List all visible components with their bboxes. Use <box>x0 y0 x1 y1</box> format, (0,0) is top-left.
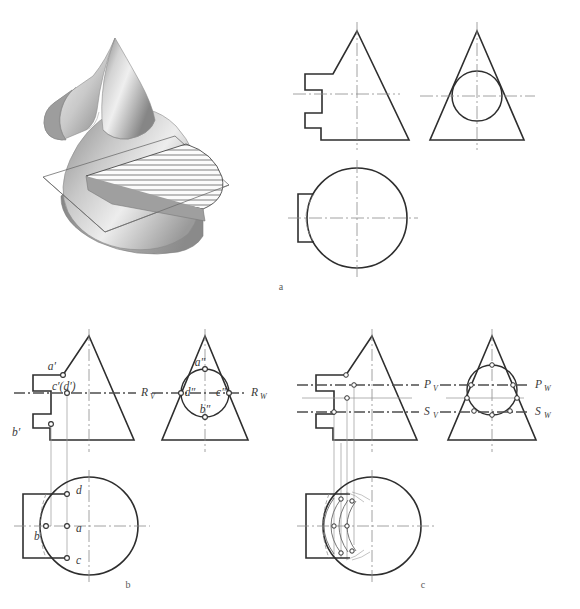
label-pv: P V <box>423 378 439 393</box>
panel-c-top-point-1 <box>332 524 336 528</box>
point-d <box>65 492 70 497</box>
svg-text:P: P <box>423 378 431 390</box>
panel-b-side-view <box>152 329 248 452</box>
panel-b-labels: a′ c′(d′) b′ a″ d″ c″ b″ d a b c R V R W <box>12 356 268 566</box>
panel-c-top-point-3 <box>339 497 343 501</box>
label-d: d <box>76 484 82 496</box>
panel-c-top-point-2 <box>345 524 349 528</box>
panel-c-front-outline <box>316 336 417 440</box>
label-a-dprime: a″ <box>195 356 206 368</box>
label-rv: R V <box>140 386 156 401</box>
panel-c-top-point-6 <box>350 549 354 553</box>
construction-tail-3 <box>352 552 370 560</box>
panel-b: a′ c′(d′) b′ a″ d″ c″ b″ d a b c R V R W… <box>12 329 268 590</box>
panel-c-side-point-swr <box>508 409 513 414</box>
svg-text:S: S <box>424 405 430 417</box>
label-a-prime: a′ <box>48 360 57 372</box>
panel-a-top-view <box>288 160 418 277</box>
svg-text:R: R <box>250 386 258 398</box>
panel-c-top-view <box>297 470 434 583</box>
point-a-prime <box>61 373 66 378</box>
label-b-prime: b′ <box>12 426 21 438</box>
point-a <box>65 524 70 529</box>
label-b-dprime: b″ <box>200 403 211 415</box>
label-pw: P W <box>534 378 552 393</box>
panel-c-caption: c <box>421 579 426 590</box>
panel-c-top-point-5 <box>339 551 343 555</box>
panel-b-front-view <box>14 329 136 560</box>
svg-text:W: W <box>544 411 552 420</box>
svg-text:W: W <box>260 392 268 401</box>
label-a: a <box>76 522 82 534</box>
label-c-dprime: c″ <box>216 386 226 398</box>
panel-c-point-sv <box>332 410 337 415</box>
panel-c-point-mid <box>345 396 350 401</box>
svg-text:R: R <box>140 386 148 398</box>
panel-c-side-point-top <box>490 363 495 368</box>
panel-c-front-view <box>297 329 419 558</box>
point-d-dprime <box>179 391 184 396</box>
label-sv: S V <box>424 405 439 420</box>
pictorial-cone-illustration <box>43 38 238 254</box>
label-cd-prime: c′(d′) <box>52 380 76 393</box>
panel-c-side-point-pwr <box>511 383 516 388</box>
construction-tail-1 <box>352 492 370 500</box>
panel-c: P V S V P W S W c <box>297 329 552 590</box>
panel-c-point-pv <box>352 383 357 388</box>
point-c-dprime <box>227 391 232 396</box>
label-d-dprime: d″ <box>185 386 196 398</box>
point-b-prime <box>49 422 54 427</box>
panel-a-caption: a <box>279 281 284 292</box>
figure-root: a <box>0 0 580 609</box>
panel-c-side-point-midr <box>515 396 520 401</box>
svg-text:P: P <box>534 378 542 390</box>
label-sw: S W <box>535 405 552 420</box>
point-b <box>44 524 49 529</box>
panel-c-point-top <box>344 373 349 378</box>
panel-c-side-point-bot <box>490 413 495 418</box>
svg-text:S: S <box>535 405 541 417</box>
point-c <box>65 556 70 561</box>
panel-a-side-view <box>420 22 535 150</box>
panel-c-side-point-midl <box>465 396 470 401</box>
panel-a-front-view <box>293 22 409 150</box>
panel-c-side-view <box>440 329 536 452</box>
panel-c-top-point-4 <box>350 499 354 503</box>
point-b-dprime <box>203 415 208 420</box>
label-c: c <box>76 554 81 566</box>
label-rw: R W <box>250 386 268 401</box>
panel-c-side-point-pwl <box>469 383 474 388</box>
panel-b-top-view <box>14 470 150 583</box>
panel-b-caption: b <box>126 579 131 590</box>
svg-text:W: W <box>544 384 552 393</box>
svg-text:V: V <box>433 411 439 420</box>
panel-a: a <box>279 22 535 292</box>
svg-text:V: V <box>433 384 439 393</box>
label-b: b <box>34 530 40 542</box>
technical-drawing-canvas: a <box>0 0 580 609</box>
panel-c-side-point-swl <box>472 409 477 414</box>
